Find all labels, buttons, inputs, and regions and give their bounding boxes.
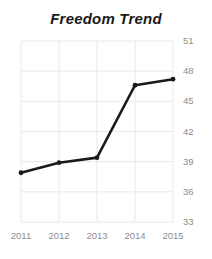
data-point-marker	[133, 83, 138, 88]
y-axis-tick-label: 36	[183, 187, 194, 197]
y-axis-tick-label: 39	[183, 157, 194, 167]
data-point-marker	[95, 155, 100, 160]
x-axis-tick-label: 2013	[77, 231, 117, 241]
x-axis-tick-label: 2014	[115, 231, 155, 241]
x-axis-tick-label: 2015	[153, 231, 193, 241]
chart-title: Freedom Trend	[0, 10, 212, 27]
data-point-marker	[171, 77, 176, 82]
y-axis-tick-label: 42	[183, 127, 194, 137]
data-point-marker	[19, 170, 24, 175]
data-point-marker	[57, 160, 62, 165]
x-axis-tick-label: 2012	[39, 231, 79, 241]
plot-area	[21, 41, 173, 222]
y-axis-tick-label: 51	[183, 36, 194, 46]
y-axis-tick-label: 33	[183, 217, 194, 227]
y-axis-tick-label: 48	[183, 66, 194, 76]
y-axis-tick-label: 45	[183, 96, 194, 106]
x-axis-tick-label: 2011	[1, 231, 41, 241]
chart-card: Freedom Trend 33363942454851 20112012201…	[0, 0, 212, 259]
line-series	[21, 41, 173, 222]
